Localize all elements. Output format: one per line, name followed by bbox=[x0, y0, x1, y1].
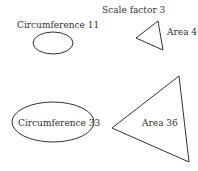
small-ellipse bbox=[33, 32, 73, 54]
large-triangle-label: Area 36 bbox=[141, 118, 178, 128]
large-ellipse-label: Circumference 33 bbox=[18, 118, 100, 128]
small-triangle bbox=[136, 21, 163, 50]
small-ellipse-label: Circumference 11 bbox=[17, 20, 99, 30]
scale-factor-title: Scale factor 3 bbox=[102, 5, 166, 15]
scale-factor-diagram: Scale factor 3 Circumference 11 Area 4 C… bbox=[0, 0, 198, 171]
small-triangle-label: Area 4 bbox=[166, 27, 197, 37]
